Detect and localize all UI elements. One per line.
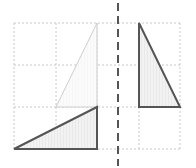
geometry-diagram bbox=[0, 0, 196, 168]
shapes bbox=[14, 23, 180, 149]
bottom-left-triangle bbox=[14, 107, 97, 149]
right-triangle bbox=[139, 23, 180, 107]
diagram-canvas bbox=[0, 0, 196, 168]
